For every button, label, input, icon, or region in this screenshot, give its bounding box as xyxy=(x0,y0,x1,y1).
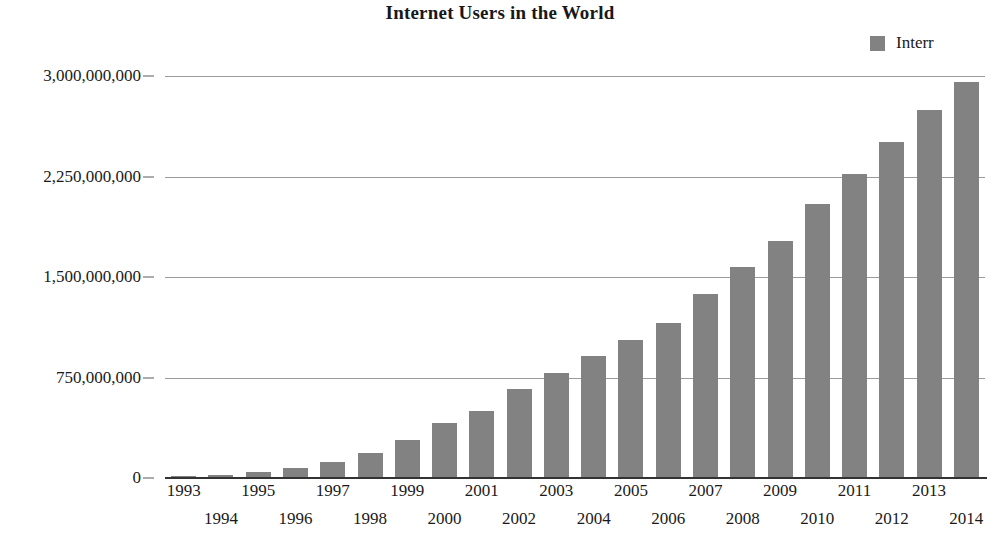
x-axis-tick-label: 2000 xyxy=(428,509,462,529)
bar xyxy=(693,294,718,478)
bar xyxy=(954,82,979,478)
x-axis-tick-label: 2009 xyxy=(763,481,797,501)
y-axis-tick-label: 1,500,000,000 xyxy=(43,267,141,287)
y-axis-tick-mark xyxy=(143,377,154,378)
bar xyxy=(544,373,569,478)
x-axis-tick-label: 2010 xyxy=(800,509,834,529)
x-axis-tick-label: 2002 xyxy=(502,509,536,529)
x-axis-tick-label: 1997 xyxy=(316,481,350,501)
chart-legend: Interr xyxy=(870,33,934,53)
legend-swatch-icon xyxy=(870,36,885,51)
y-axis-tick-label: 750,000,000 xyxy=(56,368,141,388)
x-axis-tick-label: 2003 xyxy=(539,481,573,501)
bar xyxy=(917,110,942,478)
bar xyxy=(581,356,606,478)
y-axis-tick-label: 3,000,000,000 xyxy=(43,66,141,86)
x-axis-tick-label: 1993 xyxy=(167,481,201,501)
bar xyxy=(432,423,457,478)
x-axis-tick-label: 2011 xyxy=(838,481,871,501)
x-axis: 1993199419951996199719981999200020012002… xyxy=(165,479,985,549)
x-axis-tick-label: 1996 xyxy=(278,509,312,529)
x-axis-tick-label: 2005 xyxy=(614,481,648,501)
bar xyxy=(320,462,345,478)
x-axis-tick-label: 2007 xyxy=(688,481,722,501)
x-axis-tick-label: 1999 xyxy=(390,481,424,501)
y-axis: 0750,000,0001,500,000,0002,250,000,0003,… xyxy=(0,0,165,558)
x-axis-tick-label: 1995 xyxy=(241,481,275,501)
bar xyxy=(768,241,793,478)
y-axis-tick-mark xyxy=(143,76,154,77)
x-axis-tick-label: 2001 xyxy=(465,481,499,501)
x-axis-tick-label: 2006 xyxy=(651,509,685,529)
y-axis-tick-mark xyxy=(143,478,154,479)
bar xyxy=(618,340,643,478)
x-axis-tick-label: 2012 xyxy=(875,509,909,529)
y-axis-tick-label: 2,250,000,000 xyxy=(43,167,141,187)
bar xyxy=(395,440,420,478)
bar xyxy=(507,389,532,478)
bar xyxy=(730,267,755,478)
x-axis-tick-label: 2014 xyxy=(949,509,983,529)
x-axis-tick-label: 2004 xyxy=(577,509,611,529)
x-axis-tick-label: 2013 xyxy=(912,481,946,501)
bar xyxy=(656,323,681,478)
y-axis-tick-mark xyxy=(143,176,154,177)
bar xyxy=(805,204,830,478)
bar xyxy=(469,411,494,478)
y-axis-tick-mark xyxy=(143,277,154,278)
bar xyxy=(842,174,867,478)
bar xyxy=(879,142,904,478)
x-axis-tick-label: 2008 xyxy=(726,509,760,529)
legend-label: Interr xyxy=(896,33,934,53)
plot-area xyxy=(165,76,985,478)
chart-figure: Internet Users in the World Interr 0750,… xyxy=(0,0,1000,558)
bar xyxy=(358,453,383,478)
y-axis-tick-label: 0 xyxy=(133,468,142,488)
gridline xyxy=(165,76,985,77)
x-axis-tick-label: 1998 xyxy=(353,509,387,529)
x-axis-tick-label: 1994 xyxy=(204,509,238,529)
